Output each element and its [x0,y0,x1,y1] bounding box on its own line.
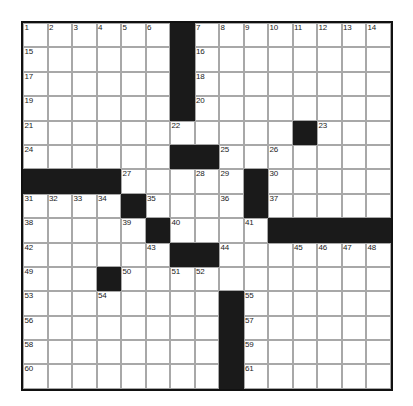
crossword-cell[interactable]: 25 [219,145,244,169]
crossword-cell[interactable] [366,291,391,315]
crossword-cell[interactable] [72,364,97,388]
crossword-cell[interactable]: 9 [244,23,269,47]
crossword-cell[interactable] [121,121,146,145]
crossword-cell[interactable] [366,194,391,218]
crossword-cell[interactable]: 50 [121,267,146,291]
crossword-cell[interactable] [170,316,195,340]
crossword-cell[interactable] [366,96,391,120]
crossword-cell[interactable]: 32 [48,194,73,218]
crossword-cell[interactable]: 56 [23,316,48,340]
crossword-cell[interactable]: 47 [342,243,367,267]
crossword-cell[interactable]: 2 [48,23,73,47]
crossword-cell[interactable]: 60 [23,364,48,388]
crossword-cell[interactable] [342,291,367,315]
crossword-cell[interactable] [342,267,367,291]
crossword-cell[interactable]: 19 [23,96,48,120]
crossword-cell[interactable] [268,47,293,71]
crossword-cell[interactable] [195,121,220,145]
crossword-cell[interactable] [48,72,73,96]
crossword-cell[interactable] [48,218,73,242]
crossword-cell[interactable] [146,121,171,145]
crossword-cell[interactable] [146,316,171,340]
crossword-cell[interactable] [342,194,367,218]
crossword-cell[interactable] [244,267,269,291]
crossword-cell[interactable] [170,291,195,315]
crossword-cell[interactable]: 21 [23,121,48,145]
crossword-cell[interactable]: 58 [23,340,48,364]
crossword-cell[interactable] [97,218,122,242]
crossword-cell[interactable] [48,267,73,291]
crossword-cell[interactable] [72,291,97,315]
crossword-cell[interactable] [366,267,391,291]
crossword-cell[interactable]: 44 [219,243,244,267]
crossword-cell[interactable] [72,96,97,120]
crossword-cell[interactable] [219,96,244,120]
crossword-cell[interactable] [366,340,391,364]
crossword-cell[interactable] [244,72,269,96]
crossword-cell[interactable]: 46 [317,243,342,267]
crossword-cell[interactable] [342,47,367,71]
crossword-cell[interactable] [293,340,318,364]
crossword-cell[interactable] [97,145,122,169]
crossword-cell[interactable]: 12 [317,23,342,47]
crossword-cell[interactable] [170,340,195,364]
crossword-cell[interactable]: 39 [121,218,146,242]
crossword-cell[interactable] [219,218,244,242]
crossword-cell[interactable]: 36 [219,194,244,218]
crossword-cell[interactable] [342,72,367,96]
crossword-cell[interactable] [195,316,220,340]
crossword-cell[interactable] [195,194,220,218]
crossword-cell[interactable] [366,121,391,145]
crossword-cell[interactable] [146,267,171,291]
crossword-cell[interactable]: 6 [146,23,171,47]
crossword-cell[interactable] [195,291,220,315]
crossword-cell[interactable]: 61 [244,364,269,388]
crossword-cell[interactable] [293,169,318,193]
crossword-cell[interactable] [97,96,122,120]
crossword-cell[interactable] [342,340,367,364]
crossword-cell[interactable] [317,47,342,71]
crossword-cell[interactable] [48,291,73,315]
crossword-cell[interactable] [121,47,146,71]
crossword-cell[interactable] [97,316,122,340]
crossword-cell[interactable]: 1 [23,23,48,47]
crossword-cell[interactable] [146,96,171,120]
crossword-cell[interactable] [195,364,220,388]
crossword-cell[interactable] [342,121,367,145]
crossword-cell[interactable]: 23 [317,121,342,145]
crossword-cell[interactable] [342,316,367,340]
crossword-cell[interactable]: 10 [268,23,293,47]
crossword-cell[interactable] [317,169,342,193]
crossword-cell[interactable] [293,291,318,315]
crossword-cell[interactable]: 55 [244,291,269,315]
crossword-cell[interactable] [244,96,269,120]
crossword-cell[interactable]: 28 [195,169,220,193]
crossword-cell[interactable] [317,316,342,340]
crossword-cell[interactable] [293,96,318,120]
crossword-cell[interactable]: 4 [97,23,122,47]
crossword-cell[interactable] [48,364,73,388]
crossword-cell[interactable] [48,340,73,364]
crossword-cell[interactable]: 54 [97,291,122,315]
crossword-cell[interactable]: 26 [268,145,293,169]
crossword-cell[interactable] [72,340,97,364]
crossword-cell[interactable] [219,121,244,145]
crossword-cell[interactable]: 16 [195,47,220,71]
crossword-cell[interactable]: 43 [146,243,171,267]
crossword-cell[interactable]: 38 [23,218,48,242]
crossword-cell[interactable] [121,145,146,169]
crossword-cell[interactable] [97,243,122,267]
crossword-grid[interactable]: 1234567891011121314151617181920212223242… [21,21,393,391]
crossword-cell[interactable]: 59 [244,340,269,364]
crossword-cell[interactable] [317,96,342,120]
crossword-cell[interactable]: 3 [72,23,97,47]
crossword-cell[interactable] [170,194,195,218]
crossword-cell[interactable] [97,121,122,145]
crossword-cell[interactable] [72,121,97,145]
crossword-cell[interactable] [195,340,220,364]
crossword-cell[interactable] [244,121,269,145]
crossword-cell[interactable] [72,47,97,71]
crossword-cell[interactable] [121,72,146,96]
crossword-cell[interactable]: 18 [195,72,220,96]
crossword-cell[interactable] [146,72,171,96]
